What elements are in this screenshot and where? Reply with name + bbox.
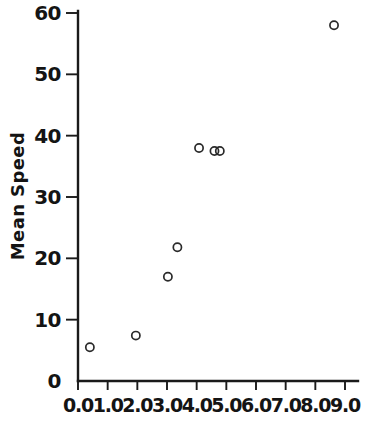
x-tick-label-9.0: 9.0 <box>330 394 361 416</box>
y-axis-title: Mean Speed <box>7 132 28 261</box>
data-point <box>173 243 181 251</box>
data-point <box>216 147 224 155</box>
y-tick-label-30: 30 <box>34 185 61 209</box>
y-tick-label-60: 60 <box>34 1 61 25</box>
y-tick-label-20: 20 <box>34 246 61 270</box>
y-tick-labels: 0102030405060 <box>34 1 61 393</box>
x-axis-group: 0.01.02.03.04.05.06.07.08.09.0 <box>63 381 361 416</box>
x-tick-label-4.0: 4.0 <box>182 394 213 416</box>
y-axis-group: 0102030405060 <box>34 1 78 393</box>
y-tick-label-0: 0 <box>48 369 61 393</box>
data-point <box>132 332 140 340</box>
data-point <box>195 144 203 152</box>
data-point <box>330 21 338 29</box>
y-tick-marks <box>66 13 78 320</box>
x-tick-label-8.0: 8.0 <box>300 394 331 416</box>
data-point <box>86 343 94 351</box>
x-tick-label-7.0: 7.0 <box>271 394 302 416</box>
y-tick-label-50: 50 <box>34 62 61 86</box>
y-tick-label-10: 10 <box>34 308 61 332</box>
x-tick-label-2.0: 2.0 <box>122 394 153 416</box>
data-point-series <box>86 21 338 351</box>
x-tick-label-6.0: 6.0 <box>241 394 272 416</box>
x-tick-label-5.0: 5.0 <box>211 394 242 416</box>
x-tick-label-0.0: 0.0 <box>63 394 94 416</box>
y-tick-label-40: 40 <box>34 124 61 148</box>
scatter-plot-figure: 0102030405060 0.01.02.03.04.05.06.07.08.… <box>0 0 371 433</box>
x-tick-label-1.0: 1.0 <box>93 394 124 416</box>
plot-canvas: 0102030405060 0.01.02.03.04.05.06.07.08.… <box>0 0 371 433</box>
x-tick-marks <box>78 381 345 390</box>
x-tick-labels: 0.01.02.03.04.05.06.07.08.09.0 <box>63 394 361 416</box>
data-point <box>164 273 172 281</box>
x-tick-label-3.0: 3.0 <box>152 394 183 416</box>
